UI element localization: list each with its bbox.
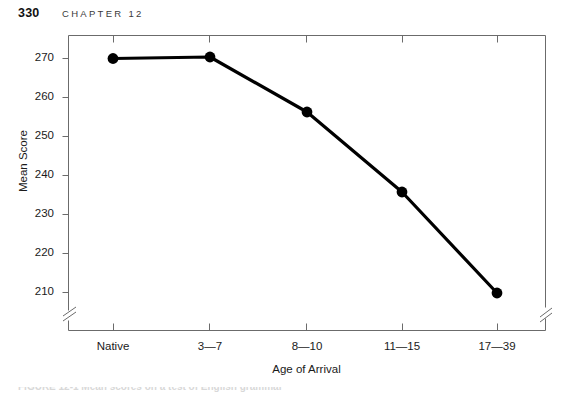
chart-canvas: [0, 0, 569, 396]
x-axis-title: Age of Arrival: [68, 363, 545, 375]
x-tick-label-3-7: 3—7: [170, 340, 250, 352]
y-axis-ticks: [63, 59, 69, 293]
y-axis-break-icon: [63, 307, 76, 321]
x-tick-label-17-39: 17—39: [457, 340, 537, 352]
y-axis-title: Mean Score: [17, 111, 29, 211]
data-point: [397, 187, 408, 198]
y-tick-label-210: 210: [14, 285, 54, 297]
data-point: [302, 107, 313, 118]
data-point: [205, 52, 216, 63]
figure-caption-clipped: FIGURE 12-1 Mean scores on a test of Eng…: [18, 387, 558, 396]
figure-line-chart: 270 260 250 240 230 220 210 Native 3—7 8…: [0, 0, 569, 396]
x-tick-label-11-15: 11—15: [362, 340, 442, 352]
x-tick-label-8-10: 8—10: [267, 340, 347, 352]
figure-caption-text: FIGURE 12-1 Mean scores on a test of Eng…: [18, 387, 558, 396]
data-point-markers: [108, 52, 503, 299]
plot-frame: [69, 36, 546, 331]
data-series-line: [113, 57, 497, 293]
data-point: [492, 288, 503, 299]
x-tick-label-native: Native: [73, 340, 153, 352]
x-axis-ticks-top: [114, 36, 498, 43]
y-tick-label-260: 260: [14, 90, 54, 102]
data-point: [108, 53, 119, 64]
x-axis-ticks: [114, 324, 498, 331]
y-tick-label-270: 270: [14, 51, 54, 63]
y-tick-label-220: 220: [14, 246, 54, 258]
